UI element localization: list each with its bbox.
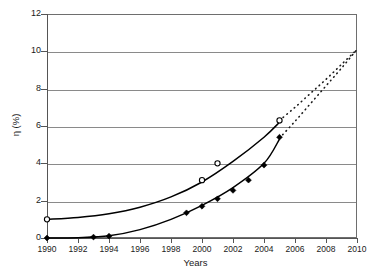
data-point-lower-series-9 — [277, 134, 283, 140]
x-tick-label-2004: 2004 — [255, 245, 274, 254]
y-tick-label-10: 10 — [13, 46, 41, 55]
x-tick-label-1992: 1992 — [69, 245, 88, 254]
data-point-lower-series-8 — [261, 162, 267, 168]
extrapolation-curve-lower-series — [280, 49, 358, 138]
y-tick-label-8: 8 — [13, 84, 41, 93]
y-tick-label-12: 12 — [13, 9, 41, 18]
data-point-lower-series-0 — [44, 235, 50, 241]
x-tick-2004 — [264, 238, 265, 243]
y-tick-label-4: 4 — [13, 158, 41, 167]
x-tick-label-2006: 2006 — [286, 245, 305, 254]
data-point-lower-series-3 — [184, 210, 190, 216]
x-tick-label-1994: 1994 — [100, 245, 119, 254]
y-tick-label-2: 2 — [13, 196, 41, 205]
x-axis-title-text: Years — [184, 257, 208, 268]
data-point-lower-series-5 — [215, 196, 221, 202]
fit-curve-lower-series — [47, 139, 280, 238]
data-layer — [47, 14, 357, 238]
chart-figure: 0246810121990199219941996199820002002200… — [0, 0, 379, 276]
x-tick-label-1990: 1990 — [38, 245, 57, 254]
x-tick-2000 — [202, 238, 203, 243]
y-tick-label-0: 0 — [13, 233, 41, 242]
data-point-upper-series-1 — [199, 178, 204, 183]
x-tick-2008 — [326, 238, 327, 243]
x-tick-2006 — [295, 238, 296, 243]
x-tick-1992 — [78, 238, 79, 243]
x-tick-label-2010: 2010 — [348, 245, 367, 254]
x-tick-2010 — [357, 238, 358, 243]
data-point-upper-series-3 — [277, 118, 282, 123]
x-tick-1996 — [140, 238, 141, 243]
x-tick-label-2000: 2000 — [193, 245, 212, 254]
fit-curve-upper-series — [47, 122, 280, 219]
x-tick-label-1998: 1998 — [162, 245, 181, 254]
x-tick-label-2008: 2008 — [317, 245, 336, 254]
data-point-upper-series-0 — [44, 217, 49, 222]
x-tick-label-2002: 2002 — [224, 245, 243, 254]
x-tick-label-1996: 1996 — [131, 245, 150, 254]
extrapolation-curve-upper-series — [280, 49, 358, 120]
x-tick-2002 — [233, 238, 234, 243]
series-curves-group — [47, 49, 357, 238]
x-tick-1998 — [171, 238, 172, 243]
y-axis-title: η (%) — [11, 95, 21, 155]
x-axis-title: Years — [0, 258, 379, 268]
data-point-lower-series-1 — [91, 234, 97, 240]
data-point-upper-series-2 — [215, 161, 220, 166]
